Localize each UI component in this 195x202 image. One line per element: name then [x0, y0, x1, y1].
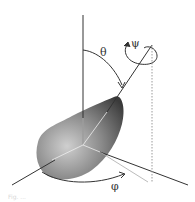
rigid-body [36, 96, 123, 179]
symmetry-axis [107, 45, 152, 112]
figure-caption: Fig. ... [8, 193, 188, 201]
theta-label: θ [100, 46, 107, 59]
phi-label: φ [111, 180, 119, 193]
psi-label: ψ [131, 37, 140, 50]
euler-angles-diagram: θ ψ φ [0, 0, 195, 202]
psi-arrowhead-icon [124, 42, 130, 47]
